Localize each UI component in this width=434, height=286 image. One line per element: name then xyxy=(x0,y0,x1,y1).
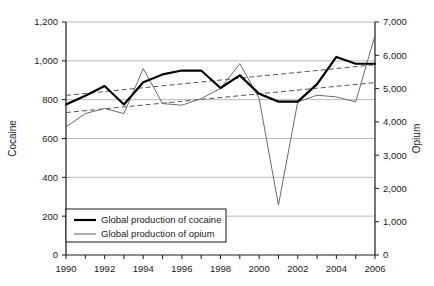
y-axis-tick-label: 1,200 xyxy=(34,16,58,27)
y-axis-tick-label: 600 xyxy=(42,133,58,144)
x-axis-tick-label: 2006 xyxy=(364,263,385,274)
y2-axis-tick-label: 6,000 xyxy=(383,50,407,61)
legend-label-0: Global production of cocaine xyxy=(101,214,221,225)
chart-container: 02004006008001,0001,20001,0002,0003,0004… xyxy=(0,0,434,286)
y2-axis-tick-label: 1,000 xyxy=(383,216,407,227)
x-axis-tick-label: 1994 xyxy=(133,263,154,274)
x-axis-tick-label: 2004 xyxy=(326,263,347,274)
x-axis-tick-label: 1996 xyxy=(171,263,192,274)
y2-axis-tick-label: 2,000 xyxy=(383,183,407,194)
y-axis-tick-label: 0 xyxy=(53,249,58,260)
y2-axis-tick-label: 5,000 xyxy=(383,83,407,94)
x-axis-tick-label: 2000 xyxy=(249,263,270,274)
y-axis-tick-label: 200 xyxy=(42,211,58,222)
legend-label-1: Global production of opium xyxy=(101,228,215,239)
x-axis-tick-label: 1992 xyxy=(94,263,115,274)
y2-axis-tick-label: 4,000 xyxy=(383,116,407,127)
y2-axis-tick-label: 3,000 xyxy=(383,150,407,161)
y-axis-tick-label: 1,000 xyxy=(34,55,58,66)
x-axis-tick-label: 1998 xyxy=(210,263,231,274)
left-axis-title: Cocaine xyxy=(7,120,18,157)
x-axis-tick-label: 2002 xyxy=(287,263,308,274)
y-axis-tick-label: 800 xyxy=(42,94,58,105)
right-axis-title: Opium xyxy=(411,124,422,153)
y-axis-tick-label: 400 xyxy=(42,172,58,183)
y2-axis-tick-label: 7,000 xyxy=(383,16,407,27)
line-chart: 02004006008001,0001,20001,0002,0003,0004… xyxy=(0,0,434,286)
x-axis-tick-label: 1990 xyxy=(55,263,76,274)
y2-axis-tick-label: 0 xyxy=(383,249,388,260)
